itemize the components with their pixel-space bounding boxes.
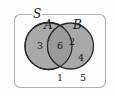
- region-b-only-upper-count: 2: [69, 37, 75, 47]
- set-b-label: B: [73, 19, 82, 31]
- region-outside-right-count: 5: [80, 73, 86, 83]
- universal-set-label: S: [33, 8, 41, 20]
- region-a-only-count: 3: [37, 41, 43, 51]
- venn-diagram-figure: A B S 3 6 2 4 1 5: [0, 0, 115, 96]
- region-outside-left-count: 1: [57, 73, 63, 83]
- set-a-label: A: [44, 19, 53, 31]
- region-b-only-lower-count: 4: [78, 53, 84, 63]
- region-a-and-b-count: 6: [57, 41, 63, 51]
